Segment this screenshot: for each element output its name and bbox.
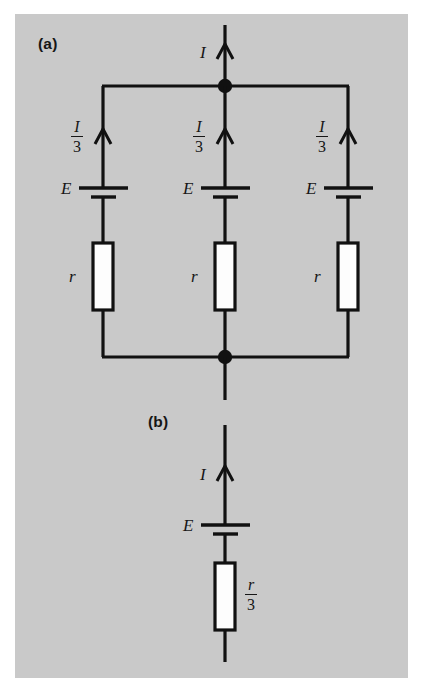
fraction-bar-left-a	[71, 136, 83, 137]
label-resistance-middle-a: r	[191, 268, 198, 285]
label-resistance-b-denominator: 3	[245, 596, 257, 613]
resistor-middle-a	[215, 243, 235, 310]
label-branch-current-middle-a-numerator: I	[193, 119, 205, 136]
fraction-bar-b	[245, 594, 257, 595]
fraction-bar-middle-a	[193, 136, 205, 137]
circuit-schematic-svg	[0, 0, 423, 692]
label-total-current-a: I	[200, 44, 206, 61]
resistor-right-a	[338, 243, 358, 310]
label-resistance-b: r 3	[245, 577, 257, 613]
resistor-left-a	[93, 243, 113, 310]
label-resistance-left-a: r	[69, 268, 76, 285]
label-emf-b: E	[183, 517, 193, 534]
resistor-equivalent-b	[215, 563, 235, 630]
label-emf-middle-a: E	[183, 180, 193, 197]
label-branch-current-right-a-numerator: I	[316, 119, 328, 136]
label-branch-current-left-a-numerator: I	[71, 119, 83, 136]
label-resistance-b-numerator: r	[245, 577, 257, 594]
figure-root: (a) (b) I I 3 I 3 I 3 E E E r r r I E r …	[0, 0, 423, 692]
label-branch-current-middle-a: I 3	[193, 119, 205, 155]
label-branch-current-right-a: I 3	[316, 119, 328, 155]
label-branch-current-middle-a-denominator: 3	[193, 138, 205, 155]
label-branch-current-right-a-denominator: 3	[316, 138, 328, 155]
label-resistance-right-a: r	[314, 268, 321, 285]
label-branch-current-left-a-denominator: 3	[71, 138, 83, 155]
panel-tag-a: (a)	[38, 36, 58, 52]
panel-tag-b: (b)	[148, 414, 168, 430]
fraction-bar-right-a	[316, 136, 328, 137]
label-branch-current-left-a: I 3	[71, 119, 83, 155]
label-emf-right-a: E	[306, 180, 316, 197]
label-current-b: I	[200, 466, 206, 483]
label-emf-left-a: E	[61, 180, 71, 197]
